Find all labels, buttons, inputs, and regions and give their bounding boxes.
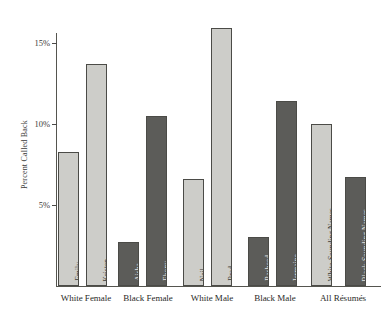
- bar-label: Ebony: [161, 261, 167, 281]
- bar-kristen[interactable]: Kristen: [86, 64, 107, 286]
- y-tick-label: 10%: [22, 119, 50, 129]
- category-label-all-r-sum-s: All Résumés: [320, 293, 366, 303]
- category-label-white-male: White Male: [191, 293, 234, 303]
- y-tick-mark: [52, 124, 57, 125]
- category-label-black-female: Black Female: [123, 293, 173, 303]
- bar-black-sounding-names[interactable]: Black-Sounding Names: [345, 177, 366, 286]
- category-label-black-male: Black Male: [254, 293, 296, 303]
- y-tick-label: 15%: [22, 38, 50, 48]
- bar-aisha[interactable]: Aisha: [118, 242, 139, 286]
- bar-label: Aisha: [133, 263, 139, 281]
- y-tick-label: 5%: [22, 200, 50, 210]
- bar-neil[interactable]: Neil: [183, 179, 204, 286]
- category-label-white-female: White Female: [61, 293, 112, 303]
- bar-jermaine[interactable]: Jermaine: [276, 101, 297, 286]
- y-tick-mark: [52, 205, 57, 206]
- bar-label: Black-Sounding Names: [360, 209, 366, 281]
- bar-rasheed[interactable]: Rasheed: [248, 237, 269, 286]
- bar-emily[interactable]: Emily: [58, 152, 79, 286]
- callback-rate-bar-chart: Percent Called Back 15%10%5%EmilyKristen…: [0, 0, 388, 317]
- bar-brad[interactable]: Brad: [211, 28, 232, 286]
- bar-label: White-Sounding Names: [326, 208, 332, 281]
- bar-label: Rasheed: [263, 255, 269, 281]
- bar-label: Neil: [198, 268, 204, 281]
- bar-label: Brad: [226, 266, 232, 281]
- bar-label: Jermaine: [291, 254, 297, 281]
- bar-white-sounding-names[interactable]: White-Sounding Names: [311, 124, 332, 286]
- plot-area: 15%10%5%EmilyKristenAishaEbonyNeilBradRa…: [0, 0, 388, 317]
- bar-label: Emily: [73, 262, 79, 281]
- y-tick-mark: [52, 43, 57, 44]
- bar-label: Kristen: [101, 259, 107, 281]
- bar-ebony[interactable]: Ebony: [146, 116, 167, 286]
